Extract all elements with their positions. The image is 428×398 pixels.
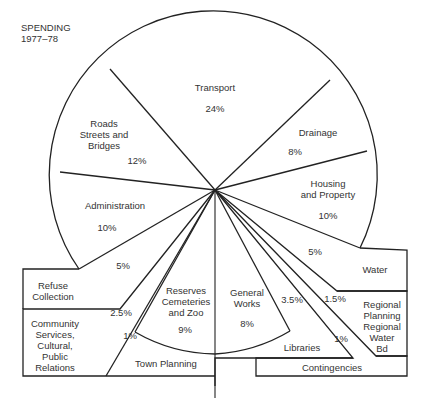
label-town-planning: Town Planning: [117, 358, 215, 369]
label-reserves: Reserves Cemeteries and Zoo: [156, 285, 216, 318]
label-refuse-collection: Refuse Collection: [25, 280, 81, 302]
chart-title: SPENDING 1977–78: [21, 22, 71, 44]
pct-reserves: 9%: [170, 324, 200, 335]
pct-contingencies: 1%: [329, 333, 353, 344]
label-administration: Administration: [75, 200, 155, 211]
pct-administration: 10%: [92, 222, 122, 233]
pct-libraries: 3.5%: [277, 294, 307, 305]
pct-roads-streets-bridges: 12%: [122, 155, 152, 166]
chart-title-line2: 1977–78: [21, 33, 71, 44]
water-box: [215, 190, 407, 291]
pct-town-planning: 1%: [120, 330, 140, 341]
pct-transport: 24%: [200, 103, 230, 114]
divider-libraries-works: [215, 190, 290, 331]
label-regional: Regional Planning Regional Water Bd: [352, 299, 412, 354]
label-housing-property: Housing and Property: [287, 178, 369, 200]
pct-housing-property: 10%: [313, 210, 343, 221]
chart-title-line1: SPENDING: [21, 22, 71, 33]
label-contingencies: Contingencies: [280, 362, 384, 373]
divider-roads-admin: [60, 172, 215, 190]
reserves-arc: [135, 332, 215, 354]
pct-drainage: 8%: [280, 146, 310, 157]
label-roads-streets-bridges: Roads Streets and Bridges: [68, 118, 140, 151]
label-community-services: Community Services, Cultural, Public Rel…: [22, 318, 88, 373]
divider-town-community: [106, 190, 215, 376]
pct-refuse-collection: 5%: [110, 260, 136, 271]
pct-community-services: 2.5%: [108, 307, 134, 318]
pct-general-works: 8%: [232, 318, 262, 329]
label-transport: Transport: [183, 82, 247, 93]
label-water: Water: [350, 264, 400, 275]
label-drainage: Drainage: [288, 127, 348, 138]
label-general-works: General Works: [222, 287, 272, 309]
label-libraries: Libraries: [272, 342, 332, 353]
pct-regional: 1.5%: [320, 293, 350, 304]
pct-water: 5%: [300, 246, 330, 257]
